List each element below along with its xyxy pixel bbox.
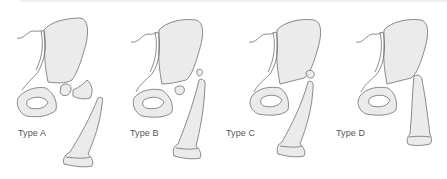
type-label: Type D bbox=[336, 128, 365, 138]
hip-femur-illustration-type-d bbox=[336, 0, 447, 179]
type-label: Type C bbox=[226, 128, 255, 138]
type-label: Type A bbox=[18, 128, 46, 138]
panel-type-a: Type A bbox=[0, 0, 112, 179]
panel-type-d: Type D bbox=[336, 0, 447, 179]
type-label: Type B bbox=[130, 128, 159, 138]
hip-femur-illustration-type-b bbox=[112, 0, 224, 179]
panel-type-c: Type C bbox=[224, 0, 336, 179]
hip-femur-illustration-type-a bbox=[0, 0, 112, 179]
panel-type-b: Type B bbox=[112, 0, 224, 179]
hip-femur-illustration-type-c bbox=[224, 0, 336, 179]
